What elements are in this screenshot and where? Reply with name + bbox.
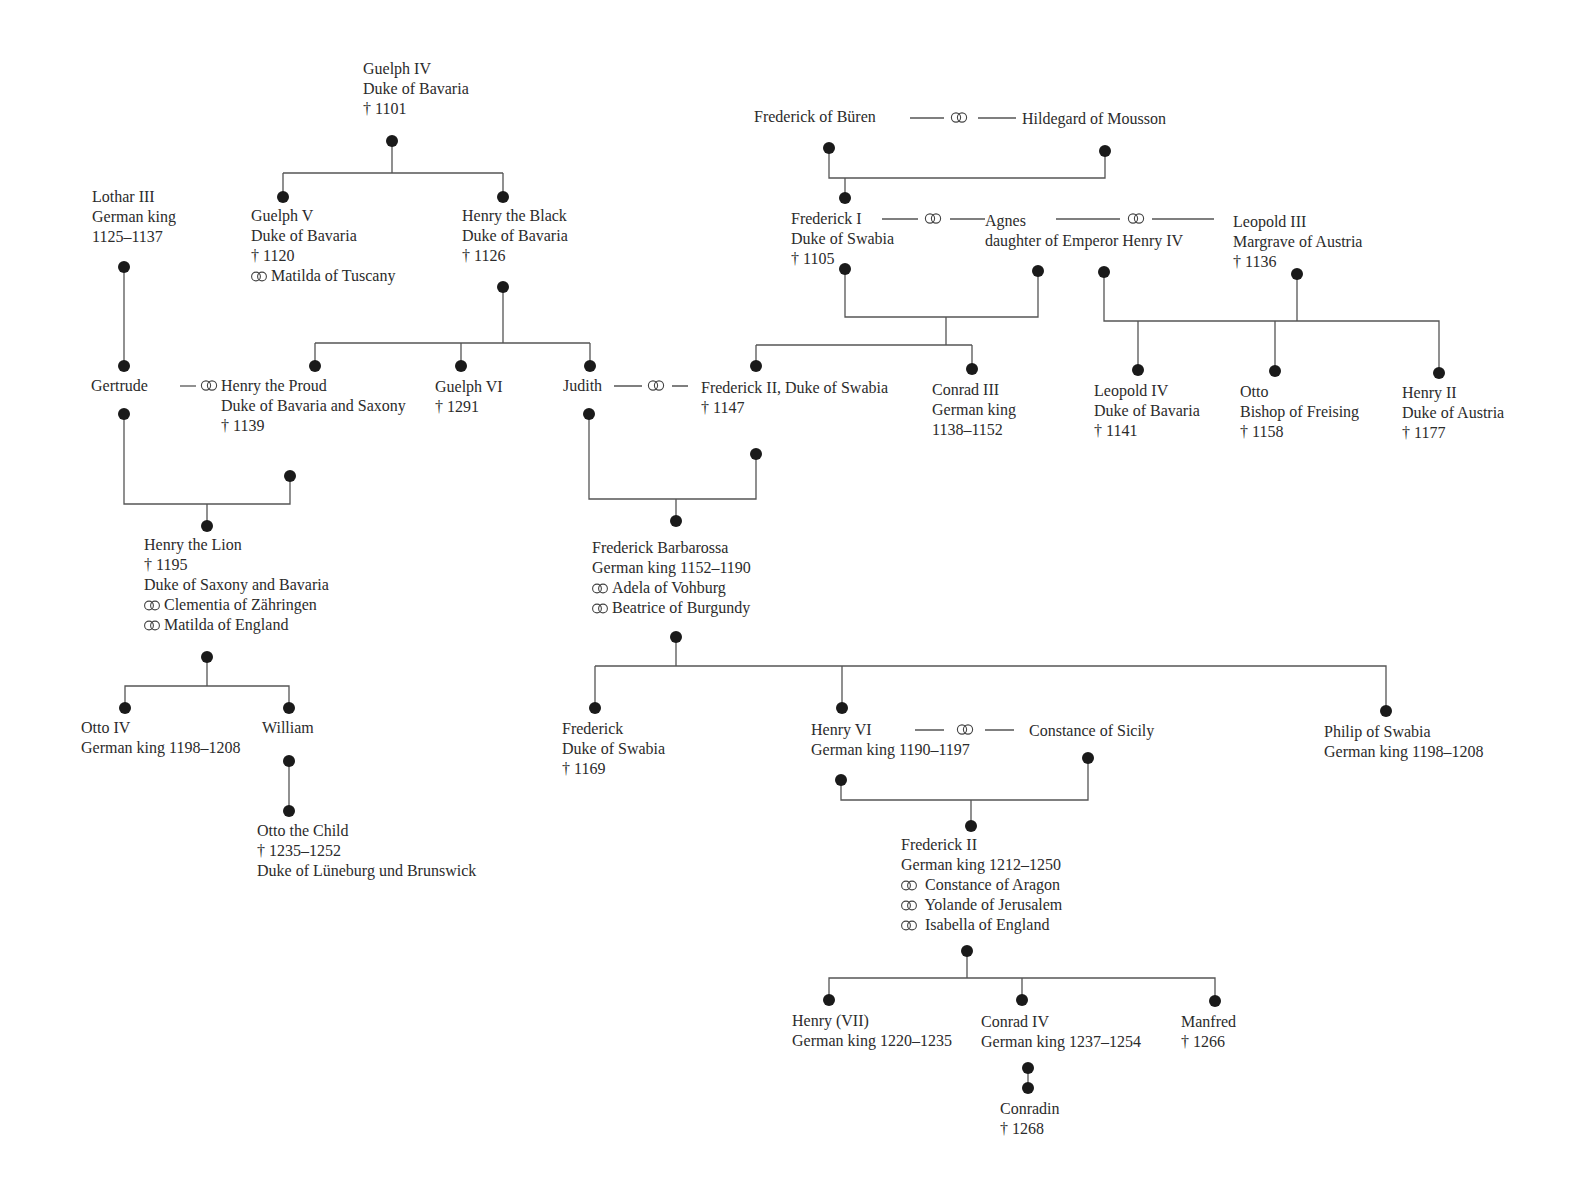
death: † 1120	[251, 246, 395, 266]
name: Frederick Barbarossa	[592, 538, 751, 558]
death: † 1266	[1181, 1032, 1236, 1052]
person-constance-of-sicily: Constance of Sicily	[1029, 721, 1154, 741]
death: † 1126	[462, 246, 568, 266]
title: Duke of Bavaria	[462, 226, 568, 246]
name: Henry the Proud	[221, 376, 406, 396]
name: Manfred	[1181, 1012, 1236, 1032]
marriage-rings-icon	[144, 600, 161, 611]
person-frederick-duke-of-swabia: Frederick Duke of Swabia † 1169	[562, 719, 665, 779]
death: † 1268	[1000, 1119, 1060, 1139]
person-frederick-ii: Frederick II German king 1212–1250 Const…	[901, 835, 1062, 935]
death: † 1195	[144, 555, 329, 575]
title: Margrave of Austria	[1233, 232, 1362, 252]
title: German king	[92, 207, 176, 227]
title: Duke of Swabia	[791, 229, 894, 249]
name: Otto IV	[81, 718, 240, 738]
person-guelph-iv: Guelph IV Duke of Bavaria † 1101	[363, 59, 469, 119]
name: Henry (VII)	[792, 1011, 952, 1031]
name: Frederick I	[791, 209, 894, 229]
spouse-name: Adela of Vohburg	[612, 579, 726, 596]
person-frederick-of-buren: Frederick of Büren	[754, 107, 876, 127]
spouse: Adela of Vohburg	[592, 578, 751, 598]
name: Leopold III	[1233, 212, 1362, 232]
name: Conrad IV	[981, 1012, 1141, 1032]
spouse-name: Matilda of England	[164, 616, 288, 633]
name: Otto	[1240, 382, 1359, 402]
person-guelph-vi: Guelph VI † 1291	[435, 377, 503, 417]
title: Duke of Bavaria	[363, 79, 469, 99]
person-lothar-iii: Lothar III German king 1125–1137	[92, 187, 176, 247]
title: Duke of Lüneburg und Brunswick	[257, 861, 476, 881]
death: † 1291	[435, 397, 503, 417]
title: Duke of Swabia	[562, 739, 665, 759]
person-gertrude: Gertrude	[91, 376, 148, 396]
title: German king 1220–1235	[792, 1031, 952, 1051]
marriage-rings-icon	[901, 920, 918, 931]
spouse-name: Isabella of England	[925, 916, 1049, 933]
title: German king 1152–1190	[592, 558, 751, 578]
person-conrad-iv: Conrad IV German king 1237–1254	[981, 1012, 1141, 1052]
person-philip-of-swabia: Philip of Swabia German king 1198–1208	[1324, 722, 1483, 762]
death: † 1141	[1094, 421, 1200, 441]
name: Henry VI	[811, 720, 970, 740]
spouse: Beatrice of Burgundy	[592, 598, 751, 618]
spouse: Isabella of England	[901, 915, 1062, 935]
marriage-rings-icon	[592, 603, 609, 614]
person-conradin: Conradin † 1268	[1000, 1099, 1060, 1139]
spouse: Constance of Aragon	[901, 875, 1062, 895]
person-henry-ii-austria: Henry II Duke of Austria † 1177	[1402, 383, 1504, 443]
reign: 1138–1152	[932, 420, 1016, 440]
person-henry-the-lion: Henry the Lion † 1195 Duke of Saxony and…	[144, 535, 329, 635]
person-guelph-v: Guelph V Duke of Bavaria † 1120 Matilda …	[251, 206, 395, 286]
person-agnes: Agnes daughter of Emperor Henry IV	[985, 211, 1183, 251]
title: German king 1190–1197	[811, 740, 970, 760]
death: † 1147	[701, 398, 888, 418]
title: German king 1212–1250	[901, 855, 1062, 875]
marriage-rings-icon	[901, 900, 918, 911]
death: † 1101	[363, 99, 469, 119]
name: Henry II	[1402, 383, 1504, 403]
person-frederick-i: Frederick I Duke of Swabia † 1105	[791, 209, 894, 269]
marriage-rings-icon	[251, 271, 268, 282]
spouse-name: Beatrice of Burgundy	[612, 599, 750, 616]
title: Duke of Saxony and Bavaria	[144, 575, 329, 595]
title: German king 1198–1208	[1324, 742, 1483, 762]
name: Agnes	[985, 211, 1183, 231]
death: † 1177	[1402, 423, 1504, 443]
death: † 1169	[562, 759, 665, 779]
person-henry-vi: Henry VI German king 1190–1197	[811, 720, 970, 760]
person-conrad-iii: Conrad III German king 1138–1152	[932, 380, 1016, 440]
spouse: Yolande of Jerusalem	[901, 895, 1062, 915]
person-otto-iv: Otto IV German king 1198–1208	[81, 718, 240, 758]
person-william: William	[262, 718, 314, 738]
name: Conrad III	[932, 380, 1016, 400]
spouse: Matilda of Tuscany	[251, 266, 395, 286]
name: Leopold IV	[1094, 381, 1200, 401]
title: daughter of Emperor Henry IV	[985, 231, 1183, 251]
marriage-rings-icon	[901, 880, 918, 891]
person-frederick-ii-duke-of-swabia: Frederick II, Duke of Swabia † 1147	[701, 378, 888, 418]
name: Frederick II, Duke of Swabia	[701, 378, 888, 398]
title: German king 1237–1254	[981, 1032, 1141, 1052]
person-otto-of-freising: Otto Bishop of Freising † 1158	[1240, 382, 1359, 442]
name: Frederick	[562, 719, 665, 739]
spouse: Clementia of Zähringen	[144, 595, 329, 615]
death: † 1235–1252	[257, 841, 476, 861]
person-hildegard-of-mousson: Hildegard of Mousson	[1022, 109, 1166, 129]
person-judith: Judith	[563, 376, 602, 396]
death: † 1136	[1233, 252, 1362, 272]
person-otto-the-child: Otto the Child † 1235–1252 Duke of Lüneb…	[257, 821, 476, 881]
name: Guelph V	[251, 206, 395, 226]
spouse-name: Clementia of Zähringen	[164, 596, 317, 613]
title: Duke of Bavaria	[251, 226, 395, 246]
title: German king	[932, 400, 1016, 420]
name: Frederick II	[901, 835, 1062, 855]
spouse-name: Constance of Aragon	[925, 876, 1060, 893]
title: German king 1198–1208	[81, 738, 240, 758]
person-frederick-barbarossa: Frederick Barbarossa German king 1152–11…	[592, 538, 751, 618]
spouse: Matilda of England	[144, 615, 329, 635]
person-henry-vii: Henry (VII) German king 1220–1235	[792, 1011, 952, 1051]
marriage-rings-icon	[144, 620, 161, 631]
title: Bishop of Freising	[1240, 402, 1359, 422]
title: Duke of Bavaria and Saxony	[221, 396, 406, 416]
